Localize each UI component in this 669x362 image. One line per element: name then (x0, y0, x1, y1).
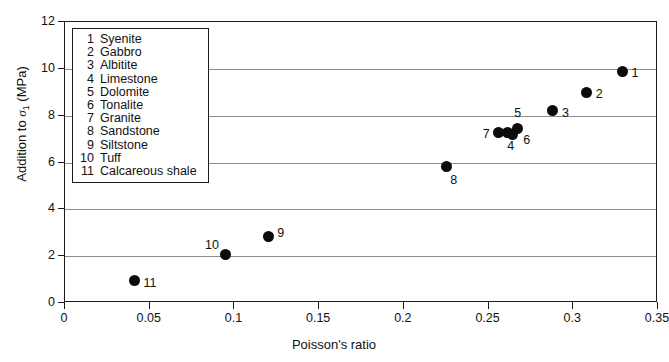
data-point-label: 7 (483, 128, 490, 140)
legend-item-label: Siltstone (100, 139, 148, 152)
legend-item-number: 3 (77, 59, 94, 72)
y-tick-label: 12 (41, 14, 55, 28)
legend-item: 11Calcareous shale (77, 165, 202, 178)
x-tick-mark (318, 302, 319, 309)
y-axis-title-prefix: Addition to (14, 117, 29, 182)
y-tick-mark (58, 162, 64, 163)
data-point (220, 249, 231, 260)
x-tick-mark (403, 302, 404, 309)
y-tick-mark (58, 115, 64, 116)
y-tick-mark (58, 21, 64, 22)
legend-item-number: 11 (77, 165, 94, 178)
y-tick-label: 8 (48, 108, 55, 122)
data-point-label: 8 (450, 174, 457, 186)
x-axis-tick-labels: 00.050.10.150.20.250.30.35 (0, 311, 668, 331)
x-tick-mark (488, 302, 489, 309)
legend-item-label: Albitite (100, 59, 138, 72)
legend-item-label: Sandstone (100, 125, 160, 138)
legend-box: 1Syenite2Gabbro3Albitite4Limestone5Dolom… (72, 28, 209, 183)
gridline (65, 256, 656, 257)
data-point-label: 1 (631, 67, 638, 79)
x-tick-label: 0.15 (306, 311, 330, 325)
sigma-subscript: 1 (21, 105, 31, 110)
x-tick-label: 0.25 (475, 311, 499, 325)
x-axis-title: Poisson's ratio (0, 337, 668, 352)
sigma-symbol: σ (14, 110, 29, 116)
x-tick-mark (572, 302, 573, 309)
y-tick-label: 10 (41, 61, 55, 75)
data-point-label: 10 (205, 239, 219, 251)
x-tick-label: 0.2 (394, 311, 411, 325)
legend-item: 3Albitite (77, 59, 202, 72)
x-tick-label: 0 (61, 311, 68, 325)
legend-item-label: Limestone (100, 73, 158, 86)
data-point-label: 5 (514, 107, 521, 119)
data-point-label: 11 (143, 277, 156, 289)
data-point-label: 4 (507, 140, 514, 152)
y-tick-label: 6 (48, 155, 55, 169)
x-tick-label: 0.05 (137, 311, 161, 325)
data-point (263, 231, 274, 242)
data-point-label: 2 (596, 88, 603, 100)
legend-item: 4Limestone (77, 73, 202, 86)
data-point (617, 66, 628, 77)
data-point (493, 127, 504, 138)
legend-item: 2Gabbro (77, 46, 202, 59)
y-axis-title-suffix: (MPa) (14, 66, 29, 105)
data-point (581, 87, 592, 98)
x-tick-mark (233, 302, 234, 309)
legend-item-number: 4 (77, 73, 94, 86)
x-tick-label: 0.1 (225, 311, 242, 325)
legend-item-label: Calcareous shale (100, 165, 197, 178)
x-tick-label: 0.35 (645, 311, 669, 325)
y-tick-mark (58, 255, 64, 256)
gridline (65, 209, 656, 210)
data-point-label: 9 (277, 227, 284, 239)
y-axis-title: Addition to σ1 (MPa) (14, 0, 30, 274)
x-tick-mark (64, 302, 65, 309)
y-tick-label: 4 (48, 201, 55, 215)
data-point (507, 129, 518, 140)
legend-item: 8Sandstone (77, 125, 202, 138)
x-tick-mark (149, 302, 150, 309)
legend-item-number: 8 (77, 125, 94, 138)
y-tick-mark (58, 208, 64, 209)
x-tick-mark (657, 302, 658, 309)
data-point-label: 3 (562, 107, 569, 119)
legend-item: 9Siltstone (77, 139, 202, 152)
y-tick-label: 2 (48, 248, 55, 262)
data-point (129, 275, 140, 286)
data-point-label: 6 (523, 134, 530, 146)
y-tick-mark (58, 68, 64, 69)
data-point (441, 161, 452, 172)
y-tick-mark (58, 302, 64, 303)
legend-item-number: 9 (77, 139, 94, 152)
x-tick-label: 0.3 (564, 311, 581, 325)
